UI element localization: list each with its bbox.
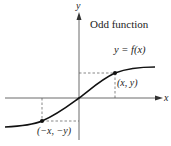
diagram-title: Odd function xyxy=(90,19,148,30)
dashed-guides xyxy=(42,73,115,121)
odd-function-curve xyxy=(5,67,155,127)
y-axis-arrow-icon xyxy=(77,12,82,20)
x-axis xyxy=(5,96,163,101)
x-axis-label: x xyxy=(164,93,168,103)
point-label-neg-x-neg-y: (−x, −y) xyxy=(37,126,71,136)
point-x-y xyxy=(113,71,117,75)
y-axis-label: y xyxy=(76,1,80,11)
point-label-x-y: (x, y) xyxy=(117,78,138,88)
equation-label: y = f(x) xyxy=(114,45,146,56)
point-neg-x-neg-y xyxy=(40,119,44,123)
x-axis-arrow-icon xyxy=(155,96,163,101)
